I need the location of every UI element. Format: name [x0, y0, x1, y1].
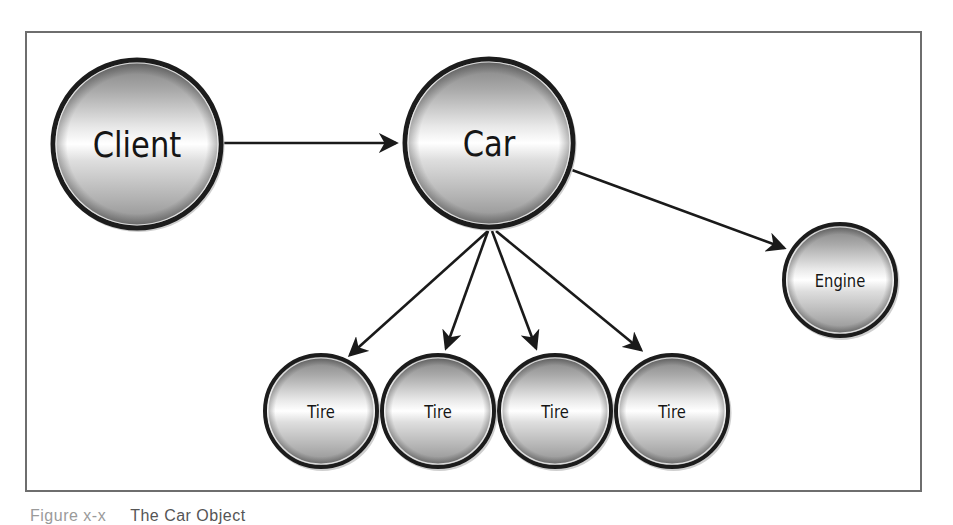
node-label-car: Car — [463, 123, 516, 165]
caption-number: Figure x-x — [30, 507, 106, 524]
node-tire4: Tire — [616, 355, 732, 471]
arrow-car-to-engine — [572, 170, 784, 248]
node-label-tire4: Tire — [657, 402, 685, 423]
arrow-car-to-tire3 — [492, 231, 536, 348]
node-label-tire2: Tire — [423, 402, 451, 423]
node-tire2: Tire — [382, 355, 498, 471]
node-engine: Engine — [784, 224, 900, 340]
node-car: Car — [405, 59, 577, 231]
node-label-tire3: Tire — [540, 402, 568, 423]
node-tire1: Tire — [265, 355, 381, 471]
caption-title: The Car Object — [130, 507, 245, 524]
node-label-engine: Engine — [815, 271, 866, 292]
node-tire3: Tire — [499, 355, 615, 471]
figure-caption: Figure x-xThe Car Object — [30, 507, 246, 525]
arrow-car-to-tire4 — [496, 231, 641, 350]
node-label-client: Client — [93, 124, 182, 166]
node-client: Client — [53, 60, 225, 232]
node-label-tire1: Tire — [306, 402, 334, 423]
arrow-car-to-tire1 — [350, 231, 488, 355]
